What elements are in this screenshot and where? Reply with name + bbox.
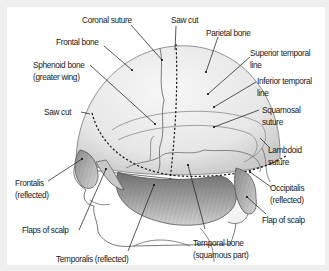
label-temporalis: Temporalis (reflected) <box>56 253 129 265</box>
label-flaps-of-scalp: Flaps of scalp <box>22 224 69 236</box>
label-squamosal-suture-2: suture <box>262 116 283 128</box>
label-saw-cut-top: Saw cut <box>171 14 198 26</box>
label-inferior-temporal-line: Inferior temporal <box>257 75 312 87</box>
label-frontal-bone: Frontal bone <box>56 36 99 48</box>
label-lambdoid-suture: Lambdoid <box>268 144 302 156</box>
label-temporal-bone: Temporal bone <box>193 237 244 249</box>
label-frontalis-reflected: (reflected) <box>15 189 49 201</box>
label-superior-temporal-line-2: line <box>250 59 262 71</box>
label-sphenoid-bone: Sphenoid bone <box>33 59 85 71</box>
label-occipitalis: Occipitalis <box>270 182 304 194</box>
label-coronal-suture: Coronal suture <box>82 14 132 26</box>
label-occipitalis-reflected: (reflected) <box>270 194 304 206</box>
label-temporal-bone-squamous: (squamous part) <box>193 249 248 261</box>
label-saw-cut-left: Saw cut <box>44 106 71 118</box>
label-superior-temporal-line: Superior temporal <box>250 47 310 59</box>
label-flap-of-scalp: Flap of scalp <box>262 214 305 226</box>
label-lambdoid-suture-2: suture <box>268 156 289 168</box>
label-frontalis: Frontalis <box>15 177 44 189</box>
label-inferior-temporal-line-2: line <box>257 87 269 99</box>
label-squamosal-suture: Squamosal <box>262 104 301 116</box>
label-sphenoid-greater-wing: (greater wing) <box>33 71 80 83</box>
label-parietal-bone: Parietal bone <box>206 27 251 39</box>
